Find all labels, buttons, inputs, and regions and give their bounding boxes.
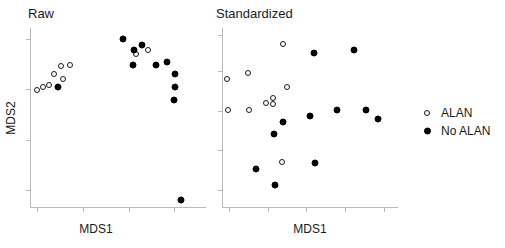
y-tick (218, 150, 222, 151)
data-point-alan (60, 76, 66, 82)
data-point-no-alan (171, 84, 178, 91)
data-point-alan (34, 87, 40, 93)
y-tick (26, 190, 30, 191)
data-point-alan (280, 41, 286, 47)
data-point-alan (284, 84, 290, 90)
x-tick (174, 208, 175, 212)
data-point-alan (225, 107, 231, 113)
x-tick (129, 208, 130, 212)
y-tick (26, 140, 30, 141)
raw-y-axis-label: MDS2 (4, 98, 18, 138)
data-point-alan (263, 100, 269, 106)
y-tick (218, 111, 222, 112)
data-point-no-alan (153, 61, 160, 68)
standardized-plot-area (222, 28, 398, 208)
data-point-no-alan (178, 197, 185, 204)
data-point-no-alan (350, 46, 357, 53)
data-point-no-alan (171, 70, 178, 77)
x-tick (306, 208, 307, 212)
data-point-no-alan (170, 97, 177, 104)
data-point-no-alan (131, 46, 138, 53)
data-point-no-alan (306, 112, 313, 119)
y-tick (218, 71, 222, 72)
panel-raw-title: Raw (28, 6, 54, 22)
data-point-alan (224, 76, 230, 82)
legend-item-alan: ALAN (424, 104, 502, 122)
data-point-alan (46, 82, 52, 88)
x-tick (37, 208, 38, 212)
data-point-no-alan (120, 35, 127, 42)
data-point-no-alan (362, 106, 369, 113)
panel-standardized: Standardized MDS1 (210, 0, 410, 248)
x-tick (268, 208, 269, 212)
data-point-alan (51, 71, 57, 77)
legend-item-no-alan: No ALAN (424, 122, 502, 140)
y-tick (26, 39, 30, 40)
data-point-no-alan (310, 49, 317, 56)
data-point-alan (245, 70, 251, 76)
data-point-no-alan (334, 106, 341, 113)
data-point-no-alan (280, 118, 287, 125)
x-tick (345, 208, 346, 212)
data-point-no-alan (374, 115, 381, 122)
data-point-alan (58, 63, 64, 69)
data-point-no-alan (54, 84, 61, 91)
x-tick (384, 208, 385, 212)
raw-plot-area (30, 28, 206, 208)
open-circle-icon (424, 110, 430, 116)
data-point-no-alan (139, 42, 146, 49)
standardized-y-axis-line (222, 28, 223, 208)
data-point-no-alan (272, 181, 279, 188)
panel-standardized-title: Standardized (216, 6, 293, 22)
legend: ALAN No ALAN (424, 104, 502, 140)
legend-label-no-alan: No ALAN (441, 122, 490, 140)
raw-x-axis-label: MDS1 (79, 222, 112, 236)
x-tick (229, 208, 230, 212)
data-point-alan (246, 107, 252, 113)
data-point-alan (270, 101, 276, 107)
data-point-no-alan (164, 58, 171, 65)
data-point-alan (145, 47, 151, 53)
y-tick (218, 190, 222, 191)
filled-circle-icon (424, 128, 431, 135)
panel-raw: Raw MDS2 MDS1 (0, 0, 215, 248)
raw-x-axis-line (30, 207, 206, 208)
data-point-no-alan (312, 159, 319, 166)
data-point-alan (279, 159, 285, 165)
standardized-x-axis-line (222, 207, 398, 208)
standardized-x-axis-label: MDS1 (293, 222, 326, 236)
legend-label-alan: ALAN (441, 104, 472, 122)
mds-ordination-figure: Raw MDS2 MDS1 Standardized MDS1 ALAN (0, 0, 505, 248)
x-tick (83, 208, 84, 212)
data-point-no-alan (130, 61, 137, 68)
y-tick (26, 89, 30, 90)
data-point-no-alan (271, 131, 278, 138)
raw-y-axis-line (30, 28, 31, 208)
data-point-no-alan (252, 166, 259, 173)
y-tick (218, 35, 222, 36)
data-point-alan (67, 62, 73, 68)
